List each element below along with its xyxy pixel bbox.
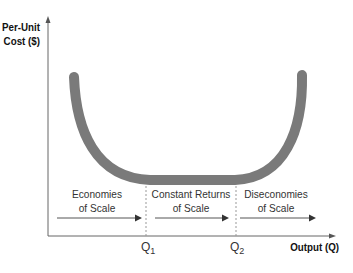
y-axis-title-line2: Cost ($) [0, 34, 40, 48]
y-axis-title-line1: Per-Unit [0, 20, 40, 34]
region-constant-line2: of Scale [148, 201, 234, 215]
region-economies-label: Economies of Scale [57, 187, 136, 215]
region-economies-line2: of Scale [57, 201, 136, 215]
tick-q1-base: Q [141, 240, 150, 254]
diagram-canvas [0, 0, 353, 273]
economies-arrowhead-icon [135, 215, 142, 222]
diseconomies-arrowhead-icon [309, 215, 316, 222]
region-economies-line1: Economies [57, 187, 136, 201]
y-axis-arrow-icon [46, 16, 51, 23]
region-diseconomies-line1: Diseconomies [241, 187, 311, 201]
tick-q2: Q2 [230, 240, 244, 256]
y-axis-title: Per-Unit Cost ($) [0, 20, 40, 48]
region-diseconomies-label: Diseconomies of Scale [241, 187, 311, 215]
tick-q2-sub: 2 [239, 246, 244, 256]
region-diseconomies-line2: of Scale [241, 201, 311, 215]
tick-q1: Q1 [141, 240, 155, 256]
constant-arrowhead-icon [222, 215, 229, 222]
region-constant-line1: Constant Returns [148, 187, 234, 201]
tick-q1-sub: 1 [150, 246, 155, 256]
cost-curve [74, 75, 302, 180]
x-axis-arrow-icon [329, 234, 336, 239]
x-axis-title: Output (Q) [271, 240, 339, 254]
region-constant-label: Constant Returns of Scale [148, 187, 234, 215]
tick-q2-base: Q [230, 240, 239, 254]
